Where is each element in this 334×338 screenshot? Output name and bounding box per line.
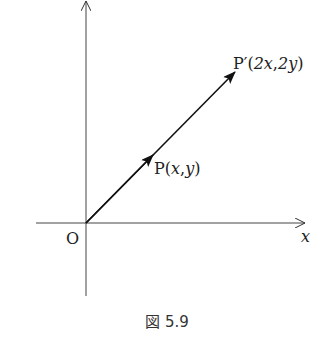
vector-op	[86, 155, 153, 223]
point-p-prime-y: 2y	[278, 54, 297, 73]
origin-label: O	[66, 231, 79, 247]
origin-label-text: O	[66, 229, 79, 248]
x-axis-label: x	[301, 229, 310, 245]
x-axis-label-text: x	[301, 227, 310, 246]
point-p-prime-label: P′(2x,2y)	[233, 56, 303, 72]
point-p-prime-x: 2x	[254, 54, 273, 73]
paren-close: )	[297, 54, 303, 73]
paren-close: )	[194, 159, 200, 178]
point-p-label: P(x,y)	[154, 161, 200, 177]
point-p-prime-name: P′	[233, 54, 247, 73]
figure-caption: 図 5.9	[0, 310, 334, 331]
point-p-name: P	[154, 159, 165, 178]
point-p-y: y	[185, 159, 194, 178]
point-p-x: x	[171, 159, 180, 178]
